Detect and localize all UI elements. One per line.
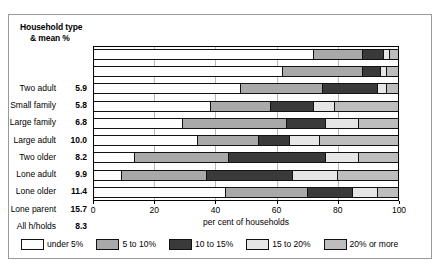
bar-segment [377,84,386,93]
bar-segment [94,84,240,93]
stacked-bar[interactable] [93,118,399,129]
bar-segment [325,119,358,128]
legend-label: 5 to 10% [122,239,156,249]
bar-segment [182,119,285,128]
bar-segment [286,119,326,128]
legend-item[interactable]: 15 to 20% [246,239,310,250]
axis-tick [338,201,339,204]
category-name: Lone parent [11,204,56,214]
axis-tick [215,201,216,204]
category-name: All h/holds [17,221,56,231]
bar-segment [325,153,358,162]
stacked-bar[interactable] [93,101,399,112]
bar-segment [94,67,282,76]
stacked-bar[interactable] [93,187,399,198]
bar-segment [386,84,398,93]
category-label-row: Small family5.8 [0,94,87,111]
bar-segment [206,171,291,180]
bar-segment [319,136,398,145]
category-mean-value: 8.3 [61,218,87,235]
bar-segment [121,171,206,180]
category-labels: Two adult5.9Small family5.8Large family6… [0,77,93,232]
axis-tick-label: 20 [149,205,158,215]
stacked-bar[interactable] [93,83,399,94]
chart-figure: Household type & mean % Two adult5.9Smal… [8,14,432,259]
x-axis-title: per cent of households [93,217,399,227]
category-label-row: Two adult5.9 [0,77,87,94]
stacked-bar[interactable] [93,135,399,146]
category-name: Lone adult [16,169,56,179]
bar-row [93,98,399,115]
legend-swatch [169,239,192,250]
legend-item[interactable]: under 5% [21,239,83,250]
category-name: Two older [19,152,56,162]
category-label-row: Two older8.2 [0,146,87,163]
legend-label: 20% or more [350,239,399,249]
category-name: Small family [10,100,56,110]
axis-tick-label: 0 [91,205,96,215]
bar-segment [292,171,338,180]
axis-tick [277,201,278,204]
bar-segment [94,188,225,197]
bar-segment [334,102,398,111]
stacked-bar[interactable] [93,49,399,60]
legend: under 5%5 to 10%10 to 15%15 to 20%20% or… [21,234,423,254]
bar-segment [313,50,362,59]
bar-segment [322,84,377,93]
bar-segment [240,84,322,93]
bar-segment [270,102,313,111]
bar-segment [94,171,121,180]
category-name: Two adult [20,83,56,93]
category-label-row: Large family6.8 [0,111,87,128]
legend-item[interactable]: 20% or more [324,239,399,250]
bar-segment [225,188,307,197]
legend-label: 10 to 15% [195,239,233,249]
legend-swatch [21,239,44,250]
plot-area: Two adult5.9Small family5.8Large family6… [93,46,399,201]
legend-item[interactable]: 10 to 15% [169,239,233,250]
bar-segment [307,188,353,197]
stacked-bar[interactable] [93,170,399,181]
bar-segment [94,136,197,145]
axis-tick-label: 100 [392,205,406,215]
bar-segment [337,171,398,180]
axis-tick [154,201,155,204]
bar-segment [94,50,313,59]
bar-segment [352,188,376,197]
stacked-bar[interactable] [93,152,399,163]
legend-swatch [96,239,119,250]
axis-tick-label: 60 [272,205,281,215]
bar-segment [313,102,334,111]
bar-row [93,132,399,149]
bar-segment [94,119,182,128]
category-label-row: Lone older11.4 [0,180,87,197]
axis-tick [93,201,94,204]
bar-segment [389,50,398,59]
bar-segment [358,119,398,128]
axis-tick-label: 80 [333,205,342,215]
legend-item[interactable]: 5 to 10% [96,239,156,250]
axis-tick [399,201,400,204]
axis-tick-label: 40 [211,205,220,215]
stacked-bar[interactable] [93,66,399,77]
bar-segment [94,153,134,162]
legend-swatch [246,239,269,250]
bar-segment [134,153,228,162]
bar-row [93,149,399,166]
bar-segment [197,136,258,145]
category-label-row: Lone adult9.9 [0,163,87,180]
category-name: Large adult [13,135,56,145]
category-label-row: All h/holds8.3 [0,215,87,232]
bar-row [93,80,399,97]
legend-label: under 5% [47,239,83,249]
bar-segment [282,67,361,76]
bar-segment [377,188,398,197]
header-household-type: Household type [20,22,82,32]
bar-row [93,63,399,80]
category-label-row: Large adult10.0 [0,129,87,146]
bar-row [93,115,399,132]
bar-segment [362,67,380,76]
bar-segment [289,136,319,145]
legend-label: 15 to 20% [272,239,310,249]
bar-segment [386,67,398,76]
